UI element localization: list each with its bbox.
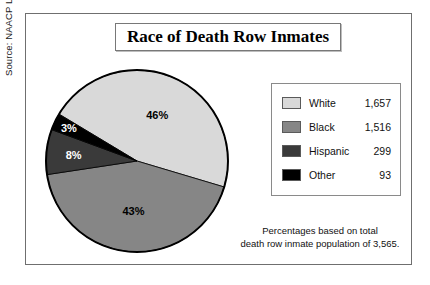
legend-row[interactable]: Black 1,516 (272, 115, 400, 139)
chart-legend: White 1,657 Black 1,516 Hispanic 299 Oth… (271, 83, 401, 196)
footnote-line-2: death row inmate population of 3,565. (236, 237, 404, 250)
legend-swatch-hispanic (282, 145, 301, 157)
page-title: Race of Death Row Inmates (127, 27, 329, 46)
legend-row[interactable]: White 1,657 (272, 91, 400, 115)
chart-footnote: Percentages based on total death row inm… (236, 224, 404, 250)
legend-label-white: White (301, 97, 365, 109)
pie-label-hispanic: 8% (66, 149, 82, 161)
footnote-line-1: Percentages based on total (236, 224, 404, 237)
pie-label-black: 43% (122, 205, 144, 217)
pie-chart: 46% 43% 8% 3% (42, 66, 232, 256)
legend-swatch-other (282, 169, 301, 181)
source-credit: Source: NAACP Legal Defense Fund, 1999. (3, 0, 19, 76)
legend-swatch-black (282, 121, 301, 133)
legend-row[interactable]: Hispanic 299 (272, 139, 400, 163)
legend-value-black: 1,516 (365, 121, 391, 133)
legend-swatch-white (282, 97, 301, 109)
legend-label-other: Other (301, 169, 379, 181)
legend-value-hispanic: 299 (373, 145, 391, 157)
legend-label-black: Black (301, 121, 365, 133)
pie-label-other: 3% (61, 122, 77, 134)
pie-chart-svg: 46% 43% 8% 3% (42, 66, 232, 256)
legend-row[interactable]: Other 93 (272, 163, 400, 187)
legend-value-other: 93 (379, 169, 391, 181)
legend-label-hispanic: Hispanic (301, 145, 373, 157)
legend-value-white: 1,657 (365, 97, 391, 109)
pie-label-white: 46% (146, 109, 168, 121)
chart-title-box: Race of Death Row Inmates (115, 23, 341, 51)
